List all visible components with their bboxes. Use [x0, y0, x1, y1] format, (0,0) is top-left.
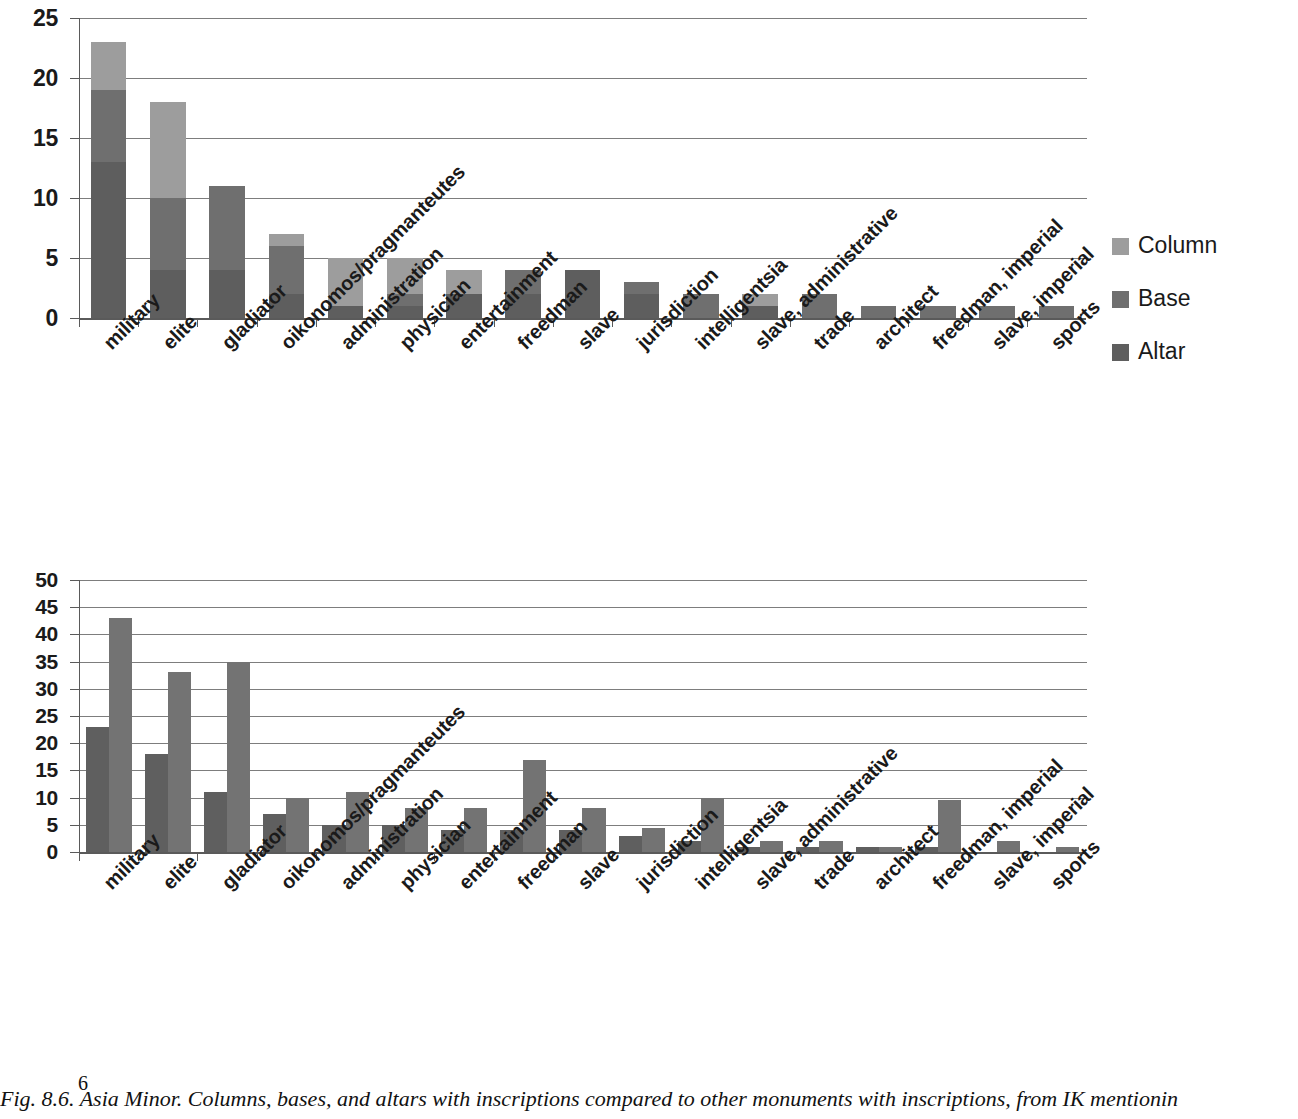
y-tick-mark: [70, 198, 79, 199]
legend-item: Base: [1112, 285, 1217, 312]
y-tick-mark: [70, 743, 79, 744]
chart-stacked-monument-types: 0510152025 militaryelitegladiatoroikonom…: [0, 0, 1298, 560]
y-tick-mark: [70, 798, 79, 799]
bar-category-freedman-imperial: [908, 18, 967, 318]
bar-category-slave: [553, 18, 612, 318]
y-tick-mark: [70, 852, 79, 853]
bar-category-military: [79, 580, 138, 852]
x-axis-line: [79, 852, 1086, 854]
y-tick-mark: [70, 18, 79, 19]
bar-segment-base: [624, 282, 660, 294]
y-tick-mark: [70, 607, 79, 608]
y-tick-mark: [70, 258, 79, 259]
bar-category-gladiator: [197, 580, 256, 852]
bar-category-military: [79, 18, 138, 318]
bar-segment-column: [91, 42, 127, 90]
y-tick-label: 20: [33, 65, 58, 92]
bottom-bar-group: [79, 580, 1086, 852]
y-tick-label: 50: [35, 568, 58, 592]
y-tick-label: 15: [33, 125, 58, 152]
grouped-bar: [204, 580, 250, 852]
top-y-axis: 0510152025: [18, 18, 70, 318]
y-tick-mark: [70, 716, 79, 717]
y-tick-label: 30: [35, 677, 58, 701]
bar-segment-base: [91, 90, 127, 162]
legend-swatch: [1112, 291, 1129, 308]
grouped-bar: [915, 580, 961, 852]
bar-category-architect: [849, 580, 908, 852]
y-tick-label: 10: [33, 185, 58, 212]
bar-category-gladiator: [197, 18, 256, 318]
bar-segment-column: [269, 234, 305, 246]
bar-category-jurisdiction: [612, 18, 671, 318]
stacked-bar: [624, 282, 660, 318]
grouped-bar: [619, 580, 665, 852]
bar-segment-base: [209, 186, 245, 270]
y-tick-label: 0: [47, 840, 58, 864]
y-tick-mark: [70, 634, 79, 635]
top-bar-group: [79, 18, 1086, 318]
legend-label: Altar: [1138, 338, 1185, 365]
bar-category-elite: [138, 18, 197, 318]
y-tick-mark: [70, 770, 79, 771]
bar-segment-altar: [209, 270, 245, 318]
y-tick-label: 5: [47, 813, 58, 837]
bar-category-slave: [553, 580, 612, 852]
bar-other: [168, 672, 191, 852]
top-legend: ColumnBaseAltar: [1112, 232, 1217, 391]
grouped-bar: [559, 580, 605, 852]
figure-caption: Fig. 8.6. Asia Minor. Columns, bases, an…: [0, 1086, 1298, 1112]
y-tick-label: 40: [35, 622, 58, 646]
legend-swatch: [1112, 238, 1129, 255]
bar-other: [227, 662, 250, 852]
stacked-bar: [209, 186, 245, 318]
x-axis-label: elite: [158, 850, 202, 894]
bar-other: [286, 798, 309, 852]
bar-total: [204, 792, 227, 852]
y-tick-mark: [70, 825, 79, 826]
y-tick-label: 10: [35, 786, 58, 810]
x-axis-line: [79, 318, 1086, 320]
y-tick-mark: [70, 318, 79, 319]
y-tick-label: 25: [33, 5, 58, 32]
y-tick-label: 20: [35, 731, 58, 755]
bar-category-entertainment: [434, 18, 493, 318]
y-tick-label: 25: [35, 704, 58, 728]
bar-segment-altar: [91, 162, 127, 318]
bar-category-oikonomos-pragmanteutes: [257, 18, 316, 318]
bar-category-architect: [849, 18, 908, 318]
y-tick-label: 35: [35, 650, 58, 674]
legend-item: Altar: [1112, 338, 1217, 365]
legend-label: Base: [1138, 285, 1190, 312]
chart-grouped-total-vs-other: 05101520253035404550 militaryelitegladia…: [0, 570, 1298, 1070]
bar-category-freedman-imperial: [908, 580, 967, 852]
y-tick-label: 15: [35, 758, 58, 782]
grouped-bar: [86, 580, 132, 852]
y-tick-label: 0: [46, 305, 59, 332]
y-tick-mark: [70, 138, 79, 139]
bar-category-elite: [138, 580, 197, 852]
bar-total: [86, 727, 109, 852]
bottom-y-axis: 05101520253035404550: [18, 580, 70, 852]
grouped-bar: [263, 580, 309, 852]
y-tick-mark: [70, 689, 79, 690]
bar-other: [938, 800, 961, 852]
legend-item: Column: [1112, 232, 1217, 259]
stacked-bar: [150, 102, 186, 318]
bar-segment-base: [150, 198, 186, 270]
bar-total: [619, 836, 642, 852]
grouped-bar: [145, 580, 191, 852]
bar-other: [109, 618, 132, 852]
legend-label: Column: [1138, 232, 1217, 259]
y-tick-mark: [70, 662, 79, 663]
legend-swatch: [1112, 344, 1129, 361]
bar-category-oikonomos-pragmanteutes: [257, 580, 316, 852]
bar-segment-column: [150, 102, 186, 198]
bar-category-jurisdiction: [612, 580, 671, 852]
grouped-bar: [856, 580, 902, 852]
stacked-bar: [91, 42, 127, 318]
y-tick-label: 5: [46, 245, 59, 272]
y-tick-label: 45: [35, 595, 58, 619]
top-plot-area: 0510152025: [18, 18, 1086, 318]
y-tick-mark: [70, 78, 79, 79]
